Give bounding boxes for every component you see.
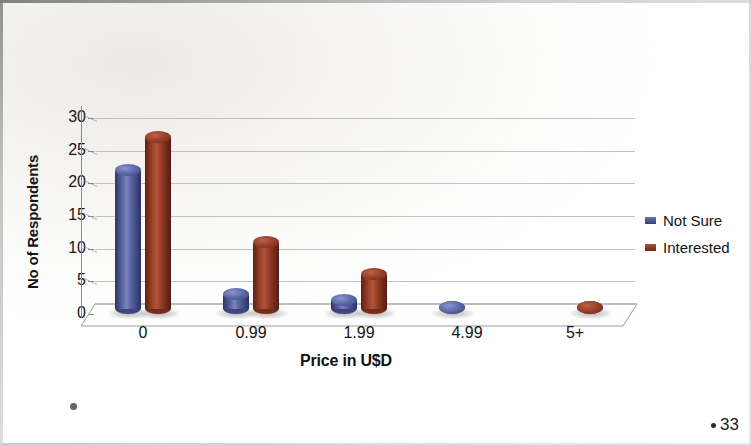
- y-tick-mark: [88, 314, 94, 315]
- y-tick-mark: [88, 183, 94, 184]
- bar-group: [311, 118, 419, 314]
- slide-canvas: No of Respondents 051015202530 00.991.99…: [0, 0, 751, 445]
- bar-group: [419, 118, 527, 314]
- bar-chart: No of Respondents 051015202530 00.991.99…: [0, 0, 751, 445]
- bar-body: [145, 138, 171, 309]
- bar-cap: [439, 301, 465, 314]
- legend-label: Not Sure: [663, 212, 722, 229]
- y-tick-mark: [88, 151, 94, 152]
- y-tick-mark: [88, 249, 94, 250]
- bar-group: [527, 118, 635, 314]
- bar-cap: [115, 164, 141, 176]
- bar-cap: [577, 301, 603, 314]
- bar-body: [253, 243, 279, 309]
- y-tick-mark: [88, 216, 94, 217]
- x-tick-label: 0: [106, 325, 180, 341]
- scan-artifact-dot: [70, 403, 77, 410]
- chart-legend: Not SureInterested: [645, 212, 730, 266]
- bar-body: [115, 171, 141, 309]
- bar-interested[interactable]: [145, 131, 171, 314]
- bar-group: [203, 118, 311, 314]
- slide-page-number: 33: [711, 415, 739, 435]
- page-number-value: 33: [720, 415, 739, 435]
- x-tick-label: 5+: [538, 325, 612, 341]
- bar-not-sure[interactable]: [115, 164, 141, 314]
- bar-not-sure[interactable]: [223, 288, 249, 314]
- bullet-icon: [711, 423, 716, 428]
- bar-body: [361, 275, 387, 309]
- legend-swatch-icon: [645, 244, 656, 251]
- legend-swatch-icon: [645, 217, 656, 224]
- y-axis-title: No of Respondents: [24, 0, 46, 132]
- y-tick-mark: [88, 118, 94, 119]
- bar-interested[interactable]: [361, 268, 387, 314]
- legend-item[interactable]: Not Sure: [645, 212, 730, 229]
- x-tick-label: 4.99: [430, 325, 504, 341]
- y-tick-mark: [88, 281, 94, 282]
- x-axis-title: Price in U$D: [236, 352, 456, 370]
- legend-item[interactable]: Interested: [645, 239, 730, 256]
- bar-group: [95, 118, 203, 314]
- y-axis-line: [81, 106, 82, 318]
- bar-cap: [253, 236, 279, 248]
- x-tick-label: 1.99: [322, 325, 396, 341]
- bar-interested[interactable]: [577, 301, 603, 314]
- x-tick-label: 0.99: [214, 325, 288, 341]
- bar-cap: [145, 131, 171, 143]
- bar-cap: [223, 288, 249, 300]
- plot-area: [95, 118, 635, 314]
- bar-interested[interactable]: [253, 236, 279, 314]
- legend-label: Interested: [663, 239, 730, 256]
- bar-not-sure[interactable]: [439, 301, 465, 314]
- bar-not-sure[interactable]: [331, 294, 357, 314]
